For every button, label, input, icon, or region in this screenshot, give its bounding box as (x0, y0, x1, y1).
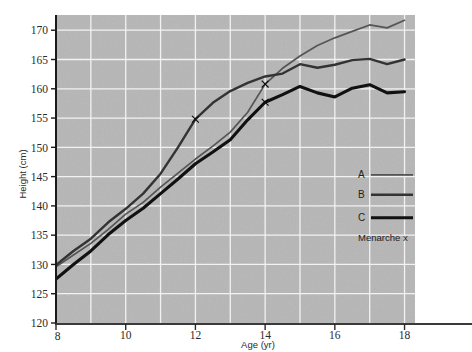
y-tick-label: 150 (31, 142, 49, 154)
x-tick-label: 16 (329, 329, 341, 341)
y-tick-label: 155 (31, 112, 49, 124)
x-axis-title: Age (yr) (241, 339, 275, 350)
y-tick-label: 140 (31, 200, 49, 212)
x-tick-label: 8 (55, 330, 61, 342)
y-tick-label: 125 (31, 288, 49, 300)
x-tick-label: 10 (120, 329, 132, 341)
legend-label-B: B (358, 189, 365, 200)
y-tick-label: 120 (31, 317, 49, 329)
legend-label-A: A (358, 169, 365, 180)
y-tick-label: 160 (31, 83, 49, 95)
menarche-annotation: Menarche x (358, 232, 408, 243)
y-tick-label: 135 (31, 229, 49, 241)
chart-figure: 120125130135140145150155160165170 810121… (0, 0, 472, 352)
y-tick-label: 130 (31, 259, 49, 271)
y-tick-label: 165 (31, 54, 49, 66)
y-axis-title: Height (cm) (17, 149, 28, 198)
growth-chart: 120125130135140145150155160165170 810121… (0, 0, 472, 352)
y-tick-label: 170 (31, 24, 49, 36)
x-tick-label: 18 (399, 329, 411, 341)
x-tick-label: 12 (190, 329, 202, 341)
y-tick-label: 145 (31, 171, 49, 183)
legend-label-C: C (358, 212, 365, 223)
